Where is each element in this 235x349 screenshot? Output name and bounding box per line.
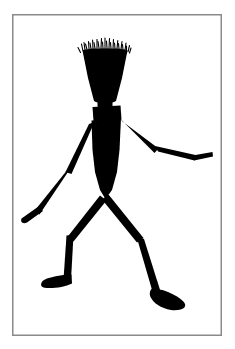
stick-figure-illustration	[0, 0, 235, 349]
collar	[93, 106, 122, 122]
drawing-canvas: Walking Stick Figure Silhouette	[0, 0, 235, 349]
neck	[98, 99, 113, 107]
